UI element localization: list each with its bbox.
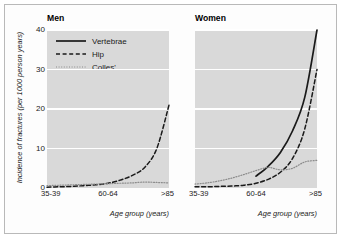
x-tick-men-2: >85	[161, 190, 174, 198]
x-tick-women-0: 35-39	[189, 190, 208, 198]
x-tick-men-0: 35-39	[41, 190, 60, 198]
series-layer	[47, 30, 169, 188]
y-tick-10: 10	[36, 145, 45, 153]
series-hip	[195, 70, 317, 187]
series-layer	[195, 30, 317, 188]
y-tick-20: 20	[36, 105, 45, 113]
x-tick-women-2: >85	[309, 190, 322, 198]
figure: Incidence of fractures (per 1000 person …	[0, 0, 341, 238]
x-axis-tick-labels-men: 35-3960-64>85	[47, 190, 169, 202]
y-tick-30: 30	[36, 66, 45, 74]
y-axis-tick-labels: 010203040	[27, 5, 45, 238]
panel-women: Women 35-3960-64>85 Age group (years)	[195, 5, 317, 238]
figure-frame: Incidence of fractures (per 1000 person …	[4, 4, 337, 234]
panel-title-women: Women	[195, 14, 226, 23]
y-axis-title: Incidence of fractures (per 1000 person …	[15, 18, 24, 198]
panel-men: Men VertebraeHipColles' 35-3960-64>85 Ag…	[47, 5, 169, 238]
x-axis-tick-labels-women: 35-3960-64>85	[195, 190, 317, 202]
x-tick-women-1: 60-64	[246, 190, 265, 198]
y-tick-40: 40	[36, 26, 45, 34]
x-axis-title-men: Age group (years)	[110, 209, 169, 218]
x-tick-men-1: 60-64	[98, 190, 117, 198]
x-axis-title-women: Age group (years)	[258, 209, 317, 218]
series-vertebrae	[256, 30, 317, 176]
plot-area-women	[195, 30, 317, 188]
panel-title-men: Men	[47, 14, 64, 23]
series-colles	[195, 160, 317, 184]
series-hip	[47, 105, 169, 187]
plot-area-men: VertebraeHipColles'	[47, 30, 169, 188]
